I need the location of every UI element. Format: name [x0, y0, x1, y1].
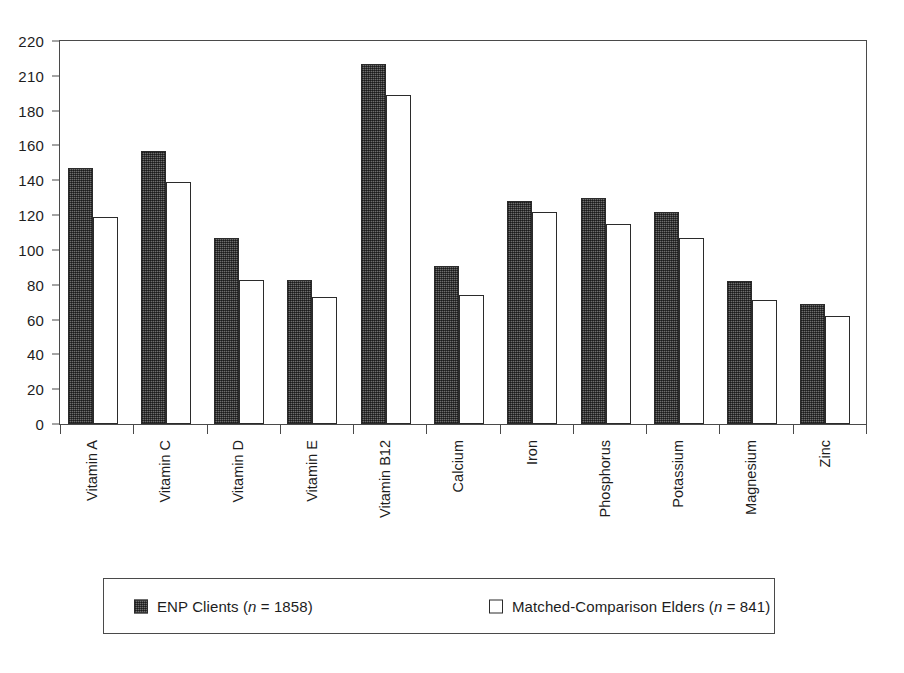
y-axis-tick-label: 60 — [27, 312, 44, 327]
chart-figure: 020406080100120140160180210220 Vitamin A… — [0, 0, 904, 673]
x-axis-tick-mark — [866, 425, 867, 434]
legend-label-1: Matched-Comparison Elders (n = 841) — [512, 598, 770, 615]
x-axis-label-vitamin-a: Vitamin A — [85, 440, 100, 501]
x-axis-label-vitamin-b12: Vitamin B12 — [378, 440, 393, 518]
x-axis-tick-mark — [207, 425, 208, 434]
bar-zinc-series-1 — [825, 316, 850, 424]
x-axis-tick-mark — [719, 425, 720, 434]
x-axis-tick-mark — [573, 425, 574, 434]
y-axis-tick-mark — [52, 180, 59, 181]
bar-vitamin-a-series-0 — [68, 168, 93, 424]
y-axis-tick-mark — [52, 145, 59, 146]
legend-entry-1: Matched-Comparison Elders (n = 841) — [489, 598, 770, 615]
bar-vitamin-d-series-1 — [239, 280, 264, 424]
legend-swatch-matched-comparison-elders — [489, 599, 503, 613]
y-axis-tick-mark — [52, 110, 59, 111]
chart-legend: ENP Clients (n = 1858)Matched-Comparison… — [103, 578, 775, 634]
bar-phosphorus-series-1 — [606, 224, 631, 424]
x-axis-tick-mark — [426, 425, 427, 434]
bar-iron-series-1 — [532, 212, 557, 424]
bar-vitamin-b12-series-1 — [386, 95, 411, 424]
x-axis-tick-mark — [133, 425, 134, 434]
y-axis-tick-mark — [52, 354, 59, 355]
legend-label-text: Matched-Comparison Elders ( — [512, 598, 714, 615]
y-axis-tick-mark — [52, 215, 59, 216]
legend-label-count: = 841) — [722, 598, 770, 615]
x-axis-label-calcium: Calcium — [451, 440, 466, 492]
bar-phosphorus-series-0 — [581, 198, 606, 424]
x-axis-tick-mark — [60, 425, 61, 434]
plot-area — [59, 40, 867, 425]
y-axis-tick-label: 100 — [18, 242, 44, 257]
legend-entry-0: ENP Clients (n = 1858) — [134, 598, 313, 615]
x-axis-tick-mark — [500, 425, 501, 434]
y-axis-tick-label: 20 — [27, 382, 44, 397]
x-axis-label-vitamin-d: Vitamin D — [231, 440, 246, 503]
bar-vitamin-d-series-0 — [214, 238, 239, 424]
bar-vitamin-b12-series-0 — [361, 64, 386, 424]
x-axis-label-magnesium: Magnesium — [744, 440, 759, 515]
bar-potassium-series-1 — [679, 238, 704, 424]
legend-label-count: = 1858) — [257, 598, 313, 615]
x-axis-label-vitamin-c: Vitamin C — [158, 440, 173, 503]
legend-label-n-symbol: n — [248, 598, 256, 615]
y-axis-tick-mark — [52, 389, 59, 390]
bar-vitamin-e-series-0 — [287, 280, 312, 424]
x-axis-tick-mark — [280, 425, 281, 434]
y-axis-tick-mark — [52, 424, 59, 425]
bars-layer — [60, 41, 866, 424]
y-axis-tick-mark — [52, 41, 59, 42]
bar-vitamin-c-series-1 — [166, 182, 191, 424]
bar-potassium-series-0 — [654, 212, 679, 424]
bar-calcium-series-0 — [434, 266, 459, 424]
legend-label-text: ENP Clients ( — [157, 598, 248, 615]
y-axis-tick-label: 220 — [18, 34, 44, 49]
y-axis-tick-label: 40 — [27, 347, 44, 362]
x-axis-tick-mark — [353, 425, 354, 434]
y-axis-tick-label: 210 — [18, 68, 44, 83]
y-axis-tick-label: 140 — [18, 173, 44, 188]
legend-swatch-enp-clients — [134, 599, 148, 613]
y-axis-tick-mark — [52, 75, 59, 76]
x-axis-label-vitamin-e: Vitamin E — [305, 440, 320, 502]
y-axis-tick-label: 80 — [27, 277, 44, 292]
bar-magnesium-series-0 — [727, 281, 752, 424]
y-axis-tick-mark — [52, 284, 59, 285]
bar-vitamin-c-series-0 — [141, 151, 166, 424]
x-axis-label-zinc: Zinc — [818, 440, 833, 467]
y-axis-tick-label: 0 — [35, 417, 44, 432]
y-axis: 020406080100120140160180210220 — [0, 40, 52, 425]
bar-zinc-series-0 — [800, 304, 825, 424]
y-axis-tick-mark — [52, 249, 59, 250]
bar-vitamin-e-series-1 — [312, 297, 337, 424]
bar-iron-series-0 — [507, 201, 532, 424]
x-axis-tick-mark — [646, 425, 647, 434]
y-axis-tick-label: 120 — [18, 208, 44, 223]
y-axis-tick-label: 180 — [18, 103, 44, 118]
x-axis-tick-mark — [793, 425, 794, 434]
y-axis-tick-mark — [52, 319, 59, 320]
legend-label-0: ENP Clients (n = 1858) — [157, 598, 313, 615]
bar-vitamin-a-series-1 — [93, 217, 118, 424]
y-axis-tick-label: 160 — [18, 138, 44, 153]
x-axis-label-potassium: Potassium — [671, 440, 686, 508]
bar-calcium-series-1 — [459, 295, 484, 424]
x-axis-label-iron: Iron — [525, 440, 540, 465]
x-axis-label-phosphorus: Phosphorus — [598, 440, 613, 517]
bar-magnesium-series-1 — [752, 300, 777, 424]
